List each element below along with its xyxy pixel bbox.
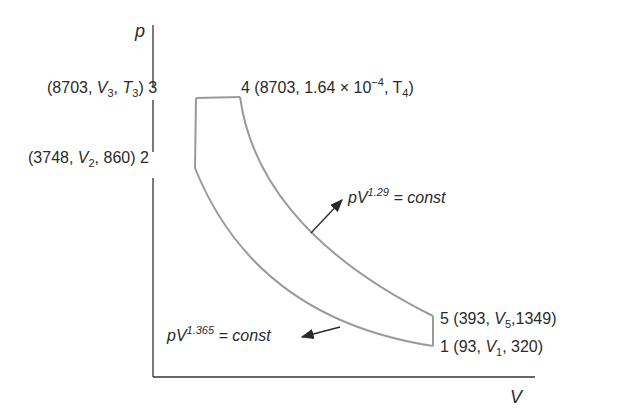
point-1-pressure: 93: [459, 338, 477, 355]
point-4-volume-exp: −4: [371, 76, 384, 88]
point-3-label: (8703, V3, T3) 3: [47, 80, 157, 96]
expansion-rhs: = const: [393, 189, 445, 206]
point-4-number: 4: [241, 79, 250, 96]
point-1-volume-sub: 1: [496, 346, 502, 358]
point-2-number: 2: [140, 149, 149, 166]
y-axis-label: p: [135, 22, 145, 40]
point-1-volume: V: [485, 338, 496, 355]
point-4-label: 4 (8703, 1.64 × 10−4, T4): [241, 80, 414, 96]
process-3-4: [196, 97, 240, 98]
point-5-volume-sub: 5: [505, 318, 511, 330]
x-axis-label: V: [510, 388, 522, 406]
expansion-base: pV: [348, 189, 368, 206]
point-5-label: 5 (393, V5,1349): [440, 311, 556, 327]
compression-exponent: 1.365: [187, 324, 215, 336]
expansion-exponent: 1.29: [368, 186, 389, 198]
point-2-volume: V: [78, 149, 89, 166]
point-5-pressure: 393: [459, 310, 486, 327]
process-2-3: [195, 98, 196, 168]
compression-arrow: [302, 327, 340, 337]
point-3-pressure: 8703: [52, 79, 88, 96]
point-4-pressure: 8703: [260, 79, 296, 96]
point-2-pressure: 3748: [33, 149, 69, 166]
point-5-temp: 1349: [516, 310, 552, 327]
point-2-label: (3748, V2, 860) 2: [28, 150, 149, 166]
point-4-volume: 1.64 × 10: [304, 79, 371, 96]
compression-annotation: pV1.365 = const: [167, 328, 271, 344]
point-1-temp: 320: [511, 338, 538, 355]
point-2-volume-sub: 2: [88, 157, 94, 169]
point-5-number: 5: [440, 310, 449, 327]
point-1-label: 1 (93, V1, 320): [440, 339, 543, 355]
expansion-arrow: [311, 200, 342, 233]
point-5-volume: V: [494, 310, 505, 327]
point-3-temp: T: [123, 79, 133, 96]
point-3-volume-sub: 3: [107, 87, 113, 99]
point-2-temp: 860: [104, 149, 131, 166]
compression-rhs: = const: [219, 327, 271, 344]
point-3-volume: V: [97, 79, 108, 96]
compression-base: pV: [167, 327, 187, 344]
cycle-path: [195, 97, 433, 346]
expansion-annotation: pV1.29 = const: [348, 190, 445, 206]
point-3-temp-sub: 3: [132, 87, 138, 99]
point-4-temp-sub: 4: [402, 87, 408, 99]
pv-diagram-canvas: [0, 0, 618, 420]
point-1-number: 1: [440, 338, 449, 355]
point-4-temp: T: [393, 79, 403, 96]
point-3-number: 3: [148, 79, 157, 96]
